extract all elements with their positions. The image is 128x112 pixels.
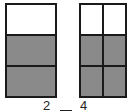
right-cell-4-shaded <box>104 36 125 65</box>
right-cell-3-shaded <box>81 36 102 65</box>
right-cell-2-unshaded <box>104 5 125 34</box>
comparison-blank[interactable] <box>60 110 72 111</box>
right-cell-6-shaded <box>104 67 125 96</box>
right-cell-5-shaded <box>81 67 102 96</box>
right-label: 4 <box>80 99 87 112</box>
left-cell-2-shaded <box>7 36 55 65</box>
left-label: 2 <box>43 99 50 112</box>
left-fraction-model <box>5 3 57 98</box>
right-cell-1-unshaded <box>81 5 102 34</box>
left-cell-1-unshaded <box>7 5 55 34</box>
left-cell-3-shaded <box>7 67 55 96</box>
right-fraction-model <box>79 3 127 98</box>
